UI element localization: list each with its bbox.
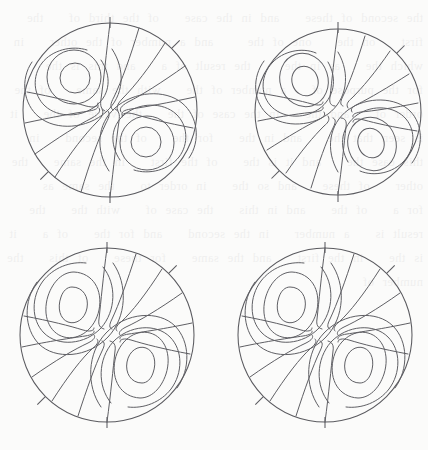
vortex-eye-ul-middle xyxy=(46,272,100,338)
vortex-eye-lr-outer xyxy=(113,105,186,172)
spiral-arm-6 xyxy=(120,339,190,354)
spiral-arm-7 xyxy=(325,341,333,422)
spiral-arm-7 xyxy=(107,341,115,422)
spiral-arm-1 xyxy=(99,248,107,329)
boundary-tick-lower-left xyxy=(272,171,280,179)
spiral-arm-8 xyxy=(311,118,335,188)
spiral-arm-1 xyxy=(317,248,325,329)
domain-boundary-circle xyxy=(255,29,421,195)
vortex-eye-lr-inner xyxy=(131,127,161,157)
boundary-tick-lower-left xyxy=(37,397,45,405)
vortex-eye-lr-middle xyxy=(114,332,168,398)
vortex-eye-ul-middle xyxy=(47,50,101,104)
vortex-eye-lr-middle xyxy=(332,332,386,398)
vortex-eye-lr-inner xyxy=(354,125,388,162)
panel-bottom-right-streamlines xyxy=(240,248,410,422)
panel-top-right-domain xyxy=(255,22,421,202)
vortex-eye-lr-middle xyxy=(120,116,174,170)
boundary-tick-upper-right xyxy=(169,265,177,273)
spiral-arm-2 xyxy=(111,28,139,110)
spiral-arm-12 xyxy=(24,316,94,331)
spiral-arm-1 xyxy=(101,23,110,111)
boundary-tick-upper-right xyxy=(387,265,395,273)
vortex-eye-ul-middle xyxy=(264,272,318,338)
spiral-arm-3 xyxy=(347,51,390,108)
panel-bottom-left-streamlines xyxy=(22,248,192,422)
boundary-tick-upper-right xyxy=(172,40,180,48)
vortex-eye-lr-inner xyxy=(127,347,155,383)
panel-top-left xyxy=(0,0,220,225)
boundary-tick-upper-right xyxy=(397,46,405,54)
spiral-arm-6 xyxy=(338,339,408,354)
spiral-arm-9 xyxy=(286,116,329,173)
spiral-arm-12 xyxy=(27,92,98,107)
vortex-eye-ul-inner xyxy=(288,63,322,100)
panel-top-right-streamlines xyxy=(256,30,421,194)
panel-top-left-streamlines xyxy=(25,23,197,197)
panel-bottom-left xyxy=(0,225,220,450)
vortex-eye-ul-inner xyxy=(60,63,90,93)
boundary-tick-lower-left xyxy=(255,397,263,405)
panel-top-right xyxy=(214,0,428,225)
figure-root: the second of these and in the case of t… xyxy=(0,0,428,450)
vortex-eye-ul-inner xyxy=(277,287,305,323)
spiral-arm-8 xyxy=(81,110,109,192)
panel-bottom-right xyxy=(214,225,428,450)
vortex-eye-lr-inner xyxy=(345,347,373,383)
spiral-arm-2 xyxy=(341,36,365,106)
vortex-eye-ul-inner xyxy=(59,287,87,323)
panel-grid xyxy=(0,0,428,450)
boundary-tick-lower-left xyxy=(40,172,48,180)
spiral-arm-12 xyxy=(242,316,312,331)
